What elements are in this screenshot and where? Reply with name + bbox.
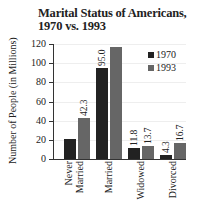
bar-value-label: 95.0 <box>97 49 107 66</box>
y-tick <box>49 102 53 103</box>
category-label: Married <box>104 161 114 205</box>
bar-1993 <box>78 118 90 159</box>
y-axis-label: Number of People (in Millions) <box>7 39 18 164</box>
y-tick-label: 60 <box>24 97 46 107</box>
y-tick <box>49 44 53 45</box>
y-tick <box>49 159 53 160</box>
y-tick-label: 40 <box>24 116 46 126</box>
bar-value-label: 42.3 <box>79 100 89 117</box>
bar-1970 <box>160 155 172 159</box>
bar-1993 <box>142 146 154 159</box>
bar-1970 <box>128 148 140 159</box>
category-label: Married <box>75 161 85 205</box>
y-tick-label: 100 <box>24 58 46 68</box>
bar-value-label: 11.8 <box>129 129 139 145</box>
gridline <box>54 44 186 45</box>
y-tick <box>49 121 53 122</box>
chart-title: Marital Status of Americans, 1970 vs. 19… <box>38 7 187 33</box>
bar-value-label: 16.7 <box>175 124 185 141</box>
legend-item-1970: 1970 <box>148 48 176 61</box>
bar-value-label: 4.3 <box>161 141 171 153</box>
y-tick-label: 120 <box>24 39 46 49</box>
category-label: Never <box>64 161 74 205</box>
y-tick-label: 20 <box>24 135 46 145</box>
bar-1993 <box>174 143 186 159</box>
y-tick-label: 80 <box>24 77 46 87</box>
swatch-1970 <box>148 52 154 58</box>
y-tick <box>49 82 53 83</box>
y-tick-label: 0 <box>24 154 46 164</box>
bar-1993 <box>110 47 122 159</box>
bar-1970 <box>64 139 76 159</box>
x-axis <box>53 159 186 160</box>
swatch-1993 <box>148 65 154 71</box>
y-tick <box>49 63 53 64</box>
category-label: Widowed <box>136 161 146 205</box>
legend: 1970 1993 <box>148 48 176 74</box>
title-line-2: 1970 vs. 1993 <box>38 20 187 33</box>
bar-1970 <box>96 68 108 159</box>
y-tick <box>49 140 53 141</box>
bar-value-label: 13.7 <box>143 127 153 144</box>
legend-label: 1970 <box>156 48 176 61</box>
category-label: Divorced <box>168 161 178 205</box>
